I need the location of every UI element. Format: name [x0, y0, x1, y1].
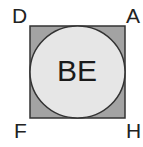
vertex-label-a: A	[126, 5, 140, 26]
vertex-label-d: D	[12, 5, 27, 26]
vertex-label-f: F	[14, 120, 27, 141]
circle-label: BE	[57, 56, 97, 86]
vertex-label-h: H	[126, 120, 141, 141]
